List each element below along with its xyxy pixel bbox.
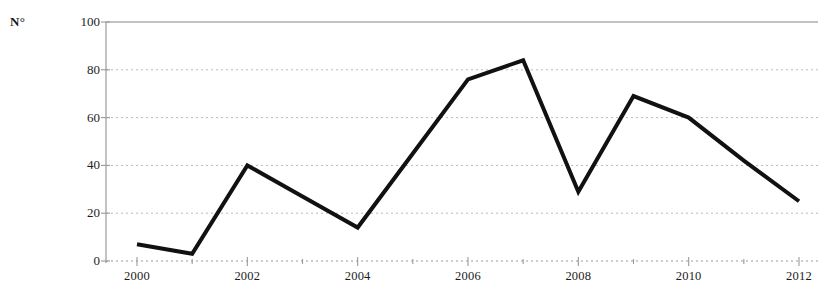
series-line-0: [137, 60, 799, 254]
axis-lines: [106, 22, 818, 263]
plot-area: [0, 0, 818, 289]
data-series-line: [137, 60, 799, 254]
gridlines: [106, 22, 818, 213]
line-chart-figure: N° 020406080100 200020022004200620082010…: [0, 0, 818, 289]
